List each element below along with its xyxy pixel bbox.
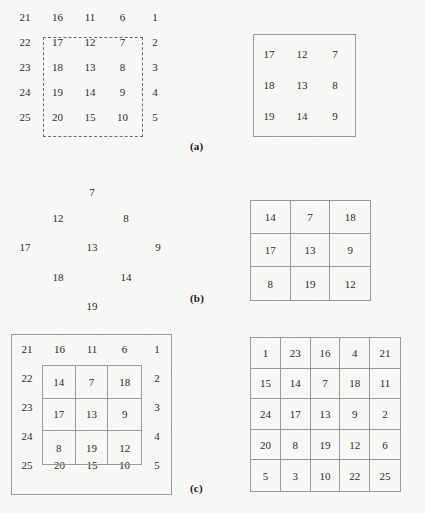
panel-c-result-cell-r0c3: 4 [340, 338, 370, 369]
panel-a-cell-r2c2: 13 [79, 62, 101, 73]
panel-c-result-cell-r2c0: 24 [251, 399, 281, 430]
panel-a-cell-r2c3: 8 [112, 62, 134, 73]
panel-b-cell-r2c2: 12 [330, 267, 370, 300]
panel-c-result-cell-r0c2: 16 [311, 338, 341, 369]
panel-c-outer-cell-r0c3: 6 [114, 344, 136, 355]
panel-c-result-cell-r4c3: 22 [340, 460, 370, 491]
panel-a-extracted-cell-r2c0: 19 [258, 111, 280, 122]
panel-a-cell-r3c2: 14 [79, 87, 101, 98]
panel-a-extracted-cell-r0c0: 17 [258, 49, 280, 60]
panel-c-outer-cell-r4c0: 25 [16, 460, 38, 471]
panel-c-result-cell-r0c4: 21 [370, 338, 400, 369]
panel-a-cell-r0c2: 11 [79, 12, 101, 23]
figure-root: 2116116122171272231813832419149425201510… [0, 0, 425, 513]
panel-a-cell-r0c1: 16 [47, 12, 69, 23]
panel-c-outer-cell-r0c0: 21 [16, 344, 38, 355]
panel-c-inner-cell-r2c0: 8 [43, 431, 76, 464]
panel-a-cell-r0c4: 1 [144, 12, 166, 23]
panel-a-cell-r0c0: 21 [14, 12, 36, 23]
panel-c-inner-cell-r1c1: 13 [76, 399, 109, 432]
panel-a-cell-r1c3: 7 [112, 37, 134, 48]
panel-c-result-cell-r0c0: 1 [251, 338, 281, 369]
panel-c-inner-cell-r1c0: 17 [43, 399, 76, 432]
panel-a-extracted-cell-r0c2: 7 [324, 49, 346, 60]
panel-a-cell-r1c4: 2 [144, 37, 166, 48]
panel-b-diamond-point-4: 13 [81, 242, 103, 253]
panel-b-diamond-point-7: 14 [115, 272, 137, 283]
panel-c-result-cell-r2c4: 2 [370, 399, 400, 430]
panel-c-result-cell-r3c1: 8 [281, 430, 311, 461]
panel-a-cell-r1c0: 22 [14, 37, 36, 48]
panel-c-result-cell-r1c4: 11 [370, 369, 400, 400]
panel-c-inner-grid: 147181713981912 [42, 365, 142, 465]
panel-c-outer-cell-r2c0: 23 [16, 402, 38, 413]
panel-b-cell-r0c0: 14 [251, 201, 291, 234]
panel-c-result-cell-r4c1: 3 [281, 460, 311, 491]
panel-c-outer-cell-r4c4: 5 [146, 460, 168, 471]
panel-c-outer-cell-r0c4: 1 [146, 344, 168, 355]
panel-a-extracted-cell-r1c2: 8 [324, 80, 346, 91]
panel-c-outer-cell-r1c0: 22 [16, 373, 38, 384]
panel-c-result-cell-r4c0: 5 [251, 460, 281, 491]
panel-a-cell-r3c3: 9 [112, 87, 134, 98]
panel-c-inner-cell-r0c1: 7 [76, 366, 109, 399]
panel-b-diamond-point-0: 7 [81, 187, 103, 198]
panel-c-result-cell-r1c1: 14 [281, 369, 311, 400]
panel-c-inner-cell-r2c1: 19 [76, 431, 109, 464]
panel-a-cell-r4c1: 20 [47, 112, 69, 123]
panel-c-outer-cell-r0c2: 11 [81, 344, 103, 355]
panel-b-cell-r2c1: 19 [291, 267, 331, 300]
panel-c-result-cell-r3c0: 20 [251, 430, 281, 461]
panel-b-cell-r1c2: 9 [330, 234, 370, 267]
panel-b-diamond-point-3: 17 [14, 242, 36, 253]
panel-b-cell-r1c0: 17 [251, 234, 291, 267]
panel-b-diamond-point-8: 19 [81, 301, 103, 312]
panel-a-cell-r3c4: 4 [144, 87, 166, 98]
panel-a-cell-r1c2: 12 [79, 37, 101, 48]
panel-b-label: (b) [190, 292, 204, 304]
panel-a-extracted-cell-r2c2: 9 [324, 111, 346, 122]
panel-c-outer-cell-r2c4: 3 [146, 402, 168, 413]
panel-c-result-cell-r1c3: 18 [340, 369, 370, 400]
panel-c-inner-cell-r1c2: 9 [108, 399, 141, 432]
panel-c-result-cell-r2c2: 13 [311, 399, 341, 430]
panel-a-cell-r4c0: 25 [14, 112, 36, 123]
panel-b-diamond-point-6: 18 [47, 272, 69, 283]
panel-c-outer-cell-r0c1: 16 [49, 344, 71, 355]
panel-c-outer-cell-r3c4: 4 [146, 431, 168, 442]
panel-a-cell-r2c1: 18 [47, 62, 69, 73]
panel-b-cell-r2c0: 8 [251, 267, 291, 300]
panel-c-result-cell-r4c4: 25 [370, 460, 400, 491]
panel-a-cell-r3c1: 19 [47, 87, 69, 98]
panel-a-cell-r2c4: 3 [144, 62, 166, 73]
panel-c-outer-cell-r3c0: 24 [16, 431, 38, 442]
panel-a-cell-r4c2: 15 [79, 112, 101, 123]
panel-a-cell-r0c3: 6 [112, 12, 134, 23]
panel-c-result-cell-r3c3: 12 [340, 430, 370, 461]
panel-b-cell-r1c1: 13 [291, 234, 331, 267]
panel-c-label: (c) [190, 482, 203, 494]
panel-c-inner-cell-r2c2: 12 [108, 431, 141, 464]
panel-a-extracted-cell-r1c1: 13 [291, 80, 313, 91]
panel-a-cell-r4c3: 10 [112, 112, 134, 123]
panel-b-diamond-point-2: 8 [115, 213, 137, 224]
panel-b-cell-r0c2: 18 [330, 201, 370, 234]
panel-c-result-cell-r0c1: 23 [281, 338, 311, 369]
panel-c-result-cell-r3c2: 19 [311, 430, 341, 461]
panel-a-cell-r2c0: 23 [14, 62, 36, 73]
panel-a-cell-r1c1: 17 [47, 37, 69, 48]
panel-a-label: (a) [190, 140, 203, 152]
panel-a-extracted-cell-r1c0: 18 [258, 80, 280, 91]
panel-b-cell-r0c1: 7 [291, 201, 331, 234]
panel-b-rotated-grid: 147181713981912 [250, 200, 371, 301]
panel-c-inner-cell-r0c0: 14 [43, 366, 76, 399]
panel-a-extracted-cell-r0c1: 12 [291, 49, 313, 60]
panel-b-diamond-point-1: 12 [47, 213, 69, 224]
panel-a-cell-r4c4: 5 [144, 112, 166, 123]
panel-c-result-cell-r4c2: 10 [311, 460, 341, 491]
panel-c-result-cell-r2c1: 17 [281, 399, 311, 430]
panel-c-result-cell-r1c0: 15 [251, 369, 281, 400]
panel-c-result-grid: 1231642115147181124171392208191265310222… [250, 337, 401, 492]
panel-a-cell-r3c0: 24 [14, 87, 36, 98]
panel-c-outer-cell-r1c4: 2 [146, 373, 168, 384]
